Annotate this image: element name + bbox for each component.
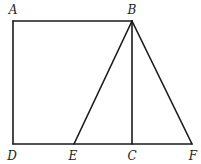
point-label-d: D — [6, 149, 17, 163]
segments — [13, 21, 192, 144]
point-label-a: A — [8, 3, 18, 17]
point-label-c: C — [127, 149, 136, 163]
point-label-f: F — [188, 149, 198, 163]
point-label-b: B — [127, 3, 137, 17]
geometry-diagram: ABCDEF — [0, 0, 201, 164]
segment-bf — [132, 21, 192, 144]
segment-be — [74, 21, 132, 144]
point-label-e: E — [68, 149, 78, 163]
